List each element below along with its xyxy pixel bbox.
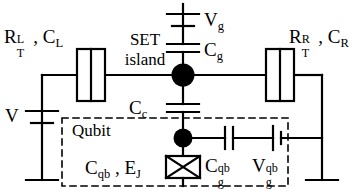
qubit-box-title: Qubit [72,122,111,139]
qubit-parameters-label: Cqb , EJ [85,158,141,180]
left-junction-comma: , [28,26,42,47]
coupling-capacitance-label: Cc [129,98,147,120]
qubit-gate-voltage-symbol: V [252,155,266,176]
set-island-label-line1: SET [112,31,178,48]
gate-capacitance-symbol: C [204,39,217,60]
qubit-gate-capacitance-label: Cqbg [205,156,240,175]
right-junction-resistance-symbol: R [289,26,302,47]
coupling-capacitance-subscript: c [142,107,148,121]
josephson-energy-symbol: E [124,157,136,178]
left-junction-resistance-symbol: R [4,26,17,47]
right-junction-capacitance-subscript: R [340,36,348,50]
left-junction-label: RLT , CL [4,27,63,49]
gate-voltage-label: Vg [204,10,224,32]
gate-voltage-symbol: V [204,9,218,30]
set-island-label-line2: island [108,51,182,68]
bias-voltage-label: V [5,106,19,125]
circuit-diagram-figure: RLT , CL RRT , CR SET island Vg Cg Cc V … [0,0,364,194]
left-junction-capacitance-subscript: L [55,36,63,50]
qubit-capacitance-subscript: qb [98,167,111,181]
qubit-gate-capacitance-symbol: C [205,155,218,176]
right-junction-label: RRT , CR [289,27,349,49]
gate-voltage-subscript: g [218,19,224,33]
gate-capacitance-label: Cg [204,40,223,62]
josephson-energy-subscript: J [136,167,141,181]
coupling-capacitance-symbol: C [129,97,142,118]
right-junction-capacitance-symbol: C [328,26,341,47]
qubit-params-comma: , [110,157,124,178]
left-junction-capacitance-symbol: C [43,26,56,47]
qubit-island-node [174,129,193,148]
qubit-capacitance-symbol: C [85,157,98,178]
qubit-gate-voltage-label: Vqbg [252,156,289,175]
right-junction-comma: , [313,26,327,47]
gate-capacitance-subscript: g [217,49,223,63]
